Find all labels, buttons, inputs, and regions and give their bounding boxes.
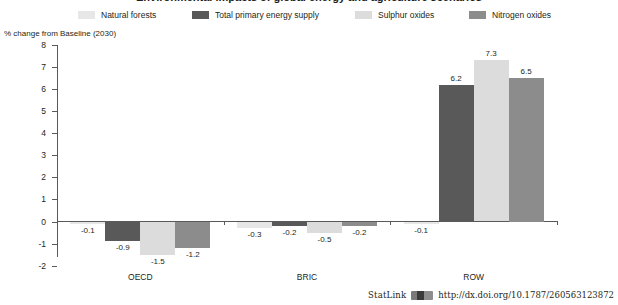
y-axis-tick xyxy=(52,155,57,156)
y-axis-label: -2 xyxy=(2,262,46,270)
legend-item-1[interactable]: Natural forests xyxy=(78,8,156,22)
chart-legend: Natural forestsTotal primary energy supp… xyxy=(0,8,618,22)
y-axis-label: 4 xyxy=(2,129,46,137)
statlink-barcode-icon xyxy=(411,291,433,300)
legend-item-4[interactable]: Nitrogen oxides xyxy=(469,8,551,22)
y-axis-label: 7 xyxy=(2,63,46,71)
y-axis-tick xyxy=(52,177,57,178)
bar-bric-series-2[interactable] xyxy=(272,222,307,226)
y-axis-label: -1 xyxy=(2,240,46,248)
y-axis-label: 5 xyxy=(2,107,46,115)
page-title: Environmental impacts of global energy a… xyxy=(0,0,618,3)
statlink-label: StatLink xyxy=(368,290,406,300)
y-axis-tick xyxy=(52,222,57,223)
y-axis-label: 2 xyxy=(2,173,46,181)
x-axis-group-label-bric: BRIC xyxy=(224,272,391,282)
legend-label: Nitrogen oxides xyxy=(492,10,551,20)
x-axis-group-tick xyxy=(557,221,558,225)
legend-swatch-icon xyxy=(192,11,209,19)
legend-swatch-icon xyxy=(78,11,95,19)
y-axis-label: 3 xyxy=(2,151,46,159)
statlink-footer: StatLink http://dx.doi.org/10.1787/26056… xyxy=(0,288,614,302)
bar-value-label: -0.2 xyxy=(335,228,384,237)
legend-swatch-icon xyxy=(469,11,486,19)
legend-swatch-icon xyxy=(355,11,372,19)
y-axis-label: 6 xyxy=(2,85,46,93)
legend-label: Natural forests xyxy=(101,10,156,20)
y-axis-tick xyxy=(52,111,57,112)
x-axis-group-tick xyxy=(390,221,391,225)
bar-value-label: -1.2 xyxy=(168,250,217,259)
bar-bric-series-4[interactable] xyxy=(342,222,377,226)
y-axis-tick xyxy=(52,199,57,200)
statlink-url[interactable]: http://dx.doi.org/10.1787/260563123872 xyxy=(438,290,614,300)
y-axis-tick xyxy=(52,266,57,267)
bar-oecd-series-1[interactable] xyxy=(70,222,105,224)
bar-value-label: -0.1 xyxy=(397,226,446,235)
bar-value-label: 6.5 xyxy=(502,67,551,76)
x-axis-group-label-row: ROW xyxy=(390,272,557,282)
bar-row-series-2[interactable] xyxy=(439,85,474,222)
y-axis-tick xyxy=(52,89,57,90)
y-axis-label: 0 xyxy=(2,218,46,226)
bar-row-series-1[interactable] xyxy=(404,222,439,224)
y-axis-caption: % change from Baseline (2030) xyxy=(4,29,116,38)
y-axis-tick xyxy=(52,244,57,245)
bar-row-series-4[interactable] xyxy=(509,78,544,221)
bar-oecd-series-4[interactable] xyxy=(175,222,210,248)
y-axis-label: 1 xyxy=(2,195,46,203)
y-axis-tick xyxy=(52,133,57,134)
y-axis-tick xyxy=(52,67,57,68)
legend-item-3[interactable]: Sulphur oxides xyxy=(355,8,434,22)
legend-label: Total primary energy supply xyxy=(215,10,319,20)
legend-label: Sulphur oxides xyxy=(378,10,434,20)
bar-row-series-3[interactable] xyxy=(474,60,509,221)
y-axis-label: 8 xyxy=(2,41,46,49)
bar-oecd-series-2[interactable] xyxy=(105,222,140,242)
x-axis-group-tick xyxy=(224,221,225,225)
y-axis-tick xyxy=(52,45,57,46)
x-axis-group-label-oecd: OECD xyxy=(57,272,224,282)
bar-value-label: 7.3 xyxy=(467,49,516,58)
legend-item-2[interactable]: Total primary energy supply xyxy=(192,8,319,22)
